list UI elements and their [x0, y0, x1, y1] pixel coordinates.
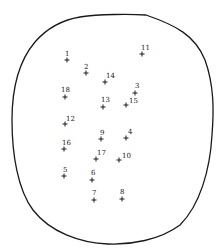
point-label: 13 — [101, 96, 110, 104]
point-marker: 13 — [101, 96, 110, 110]
point-marker: 6 — [90, 169, 97, 183]
point-label: 2 — [84, 63, 88, 71]
point-label: 12 — [66, 115, 75, 123]
point-map-diagram: 123456789101112131415161718 — [0, 0, 220, 248]
point-marker: 3 — [133, 82, 140, 96]
point-marker: 11 — [140, 44, 150, 57]
point-label: 10 — [122, 152, 131, 160]
point-marker: 17 — [94, 149, 106, 162]
point-label: 7 — [92, 189, 96, 197]
point-marker: 15 — [124, 97, 138, 108]
marked-points: 123456789101112131415161718 — [61, 44, 150, 203]
point-label: 8 — [120, 188, 124, 196]
point-label: 1 — [65, 50, 69, 58]
point-marker: 8 — [120, 188, 125, 202]
point-marker: 10 — [117, 152, 131, 163]
point-label: 15 — [129, 97, 138, 105]
point-marker: 7 — [92, 189, 97, 203]
point-marker: 4 — [124, 128, 134, 141]
point-label: 9 — [100, 129, 104, 137]
point-label: 5 — [63, 166, 67, 174]
region-outline — [12, 14, 213, 244]
point-marker: 2 — [84, 63, 89, 76]
point-marker: 5 — [62, 166, 68, 179]
point-marker: 1 — [65, 50, 70, 63]
point-label: 18 — [61, 86, 70, 94]
point-marker: 9 — [99, 129, 105, 142]
point-label: 4 — [128, 128, 133, 136]
point-marker: 18 — [61, 86, 70, 100]
point-marker: 16 — [62, 139, 72, 152]
point-label: 14 — [106, 72, 115, 80]
point-label: 16 — [62, 139, 71, 147]
point-label: 11 — [141, 44, 150, 52]
point-label: 6 — [91, 169, 96, 177]
point-label: 3 — [135, 82, 139, 90]
point-marker: 12 — [63, 115, 75, 127]
point-label: 17 — [97, 149, 106, 157]
point-marker: 14 — [103, 72, 116, 85]
